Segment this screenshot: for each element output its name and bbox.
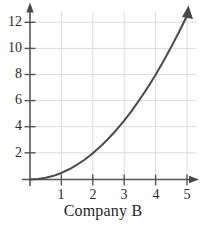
y-tick-label-10: 10 — [0, 41, 22, 55]
y-axis-arrowhead — [26, 3, 33, 13]
chart-plot-area — [0, 0, 206, 227]
y-tick-label-4: 4 — [0, 119, 22, 133]
data-curve — [30, 6, 193, 180]
x-axis-arrowhead — [189, 176, 199, 183]
y-tick-label-6: 6 — [0, 93, 22, 107]
y-tick-label-2: 2 — [0, 146, 22, 160]
y-tick-label-12: 12 — [0, 15, 22, 29]
x-tick-label-3: 3 — [114, 188, 134, 202]
chart-caption: Company B — [0, 203, 206, 219]
x-tick-label-4: 4 — [146, 188, 166, 202]
y-tick-label-8: 8 — [0, 67, 22, 81]
x-tick-label-5: 5 — [177, 188, 197, 202]
curve-arrowhead — [182, 6, 193, 20]
x-tick-label-1: 1 — [51, 188, 71, 202]
y-axis — [26, 3, 33, 187]
vertical-gridlines — [61, 12, 187, 179]
x-tick-label-2: 2 — [83, 188, 103, 202]
chart-figure: 12 10 8 6 4 2 1 2 3 4 5 Company B — [0, 0, 206, 227]
